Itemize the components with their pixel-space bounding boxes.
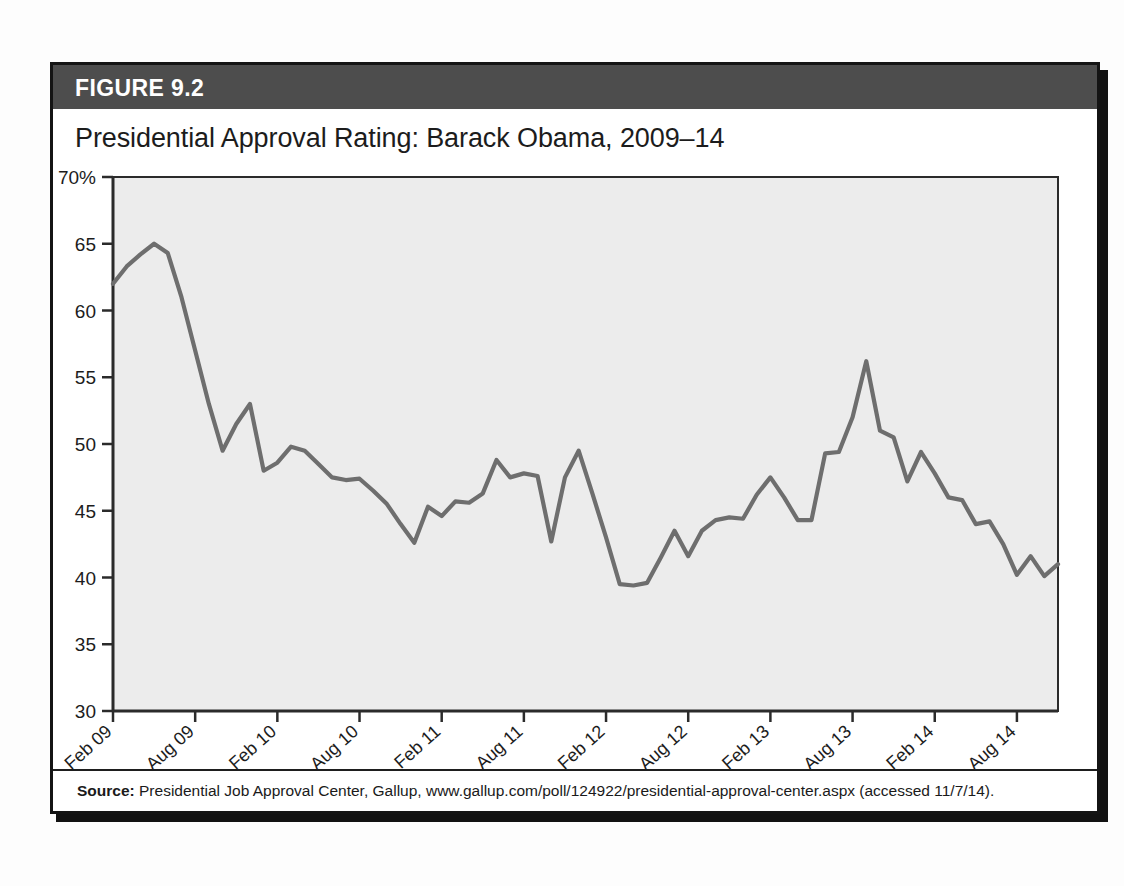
y-axis-tick-label: 70% <box>58 169 96 188</box>
x-axis-tick-label: Feb 10 <box>225 721 280 769</box>
x-axis-tick-label: Feb 09 <box>61 721 116 769</box>
y-axis-tick-label: 35 <box>75 634 96 655</box>
y-axis-tick-label: 60 <box>75 301 96 322</box>
x-axis-tick-label: Aug 12 <box>635 721 691 769</box>
figure-header-bar: FIGURE 9.2 <box>53 65 1097 109</box>
x-axis-tick-label: Aug 10 <box>306 721 362 769</box>
y-axis-tick-label: 65 <box>75 234 96 255</box>
y-axis-tick-label: 40 <box>75 568 96 589</box>
x-axis-tick-label: Aug 14 <box>964 721 1020 769</box>
source-label: Source: <box>77 782 135 799</box>
figure-container: FIGURE 9.2 Presidential Approval Rating:… <box>50 62 1100 814</box>
y-axis-tick-label: 50 <box>75 434 96 455</box>
y-axis-tick-label: 55 <box>75 367 96 388</box>
approval-rating-line-chart: 303540455055606570%Feb 09Aug 09Feb 10Aug… <box>53 169 1097 769</box>
source-note: Source: Presidential Job Approval Center… <box>77 781 1081 801</box>
source-citation-text: Presidential Job Approval Center, Gallup… <box>135 782 995 799</box>
x-axis-tick-label: Feb 11 <box>390 721 444 769</box>
x-axis-tick-label: Feb 13 <box>718 721 773 769</box>
x-axis-tick-label: Feb 12 <box>554 721 609 769</box>
y-axis-tick-label: 30 <box>75 701 96 722</box>
x-axis-tick-label: Aug 11 <box>472 721 527 769</box>
y-axis-tick-label: 45 <box>75 501 96 522</box>
source-divider <box>53 769 1097 771</box>
figure-title: Presidential Approval Rating: Barack Oba… <box>75 123 724 154</box>
x-axis-tick-label: Aug 13 <box>799 721 855 769</box>
plot-background <box>113 177 1058 711</box>
x-axis-tick-label: Feb 14 <box>882 721 937 769</box>
figure-number-label: FIGURE 9.2 <box>75 75 204 102</box>
x-axis-tick-label: Aug 09 <box>142 721 198 769</box>
chart-canvas: 303540455055606570%Feb 09Aug 09Feb 10Aug… <box>53 169 1097 769</box>
